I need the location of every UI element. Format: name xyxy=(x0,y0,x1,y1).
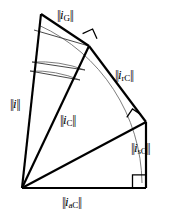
label-i-ac-close: || xyxy=(78,194,81,209)
label-i-sc-subscript: sC xyxy=(137,146,146,156)
edge-ic xyxy=(22,46,89,188)
label-i: ||i|| xyxy=(10,97,19,110)
right-angle-bottom-icon xyxy=(133,175,147,188)
figure-canvas: ||iG|| ||irC|| ||isC|| ||iaC|| ||i|| ||i… xyxy=(0,0,174,216)
label-i-c-subscript: C xyxy=(66,118,72,128)
edge-irc xyxy=(89,46,146,122)
geometry-drawing xyxy=(0,0,174,216)
outline-group xyxy=(22,14,146,188)
label-i-g-subscript: G xyxy=(63,13,69,23)
edge-origin-to-midright xyxy=(22,122,146,188)
arc-group xyxy=(30,26,142,184)
label-i-ac: ||iaC|| xyxy=(62,195,81,208)
label-i-rc-subscript: rC xyxy=(121,73,130,83)
label-i-close: || xyxy=(16,96,19,111)
right-angle-middle-icon xyxy=(127,109,141,118)
chord-top xyxy=(34,30,89,46)
label-i-g: ||iG|| xyxy=(57,8,73,21)
edge-i xyxy=(22,14,41,188)
label-i-c: ||iC|| xyxy=(60,113,75,126)
label-i-g-close: || xyxy=(70,7,73,22)
label-i-rc-close: || xyxy=(130,67,133,82)
right-angle-top-icon xyxy=(83,29,97,39)
label-i-rc: ||irC|| xyxy=(115,68,133,81)
label-i-sc: ||isC|| xyxy=(131,141,150,154)
label-i-c-close: || xyxy=(72,112,75,127)
label-i-ac-subscript: aC xyxy=(68,200,78,210)
